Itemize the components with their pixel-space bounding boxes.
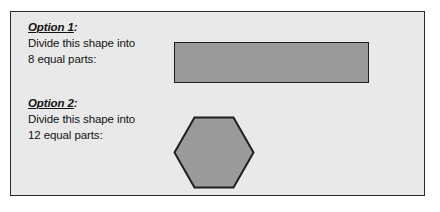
option-1-heading: Option 1: (28, 20, 178, 35)
option-2-heading-text: Option 2 (28, 97, 74, 109)
option-2-instruction-line-1: Divide this shape into (28, 112, 178, 128)
worksheet-panel: Option 1: Divide this shape into 8 equal… (10, 11, 425, 196)
option-2-heading-colon: : (74, 97, 78, 109)
hexagon-shape (173, 116, 255, 189)
option-block-2: Option 2: Divide this shape into 12 equa… (28, 96, 178, 143)
option-1-heading-colon: : (74, 21, 78, 33)
option-1-instruction-line-1: Divide this shape into (28, 36, 178, 52)
option-1-instruction-line-2: 8 equal parts: (28, 52, 178, 68)
hexagon-polygon (175, 118, 254, 188)
option-1-heading-text: Option 1 (28, 21, 74, 33)
rectangle-shape (174, 42, 369, 83)
option-2-heading: Option 2: (28, 96, 178, 111)
option-block-1: Option 1: Divide this shape into 8 equal… (28, 20, 178, 67)
hexagon-svg (173, 116, 255, 189)
option-2-instruction-line-2: 12 equal parts: (28, 128, 178, 144)
